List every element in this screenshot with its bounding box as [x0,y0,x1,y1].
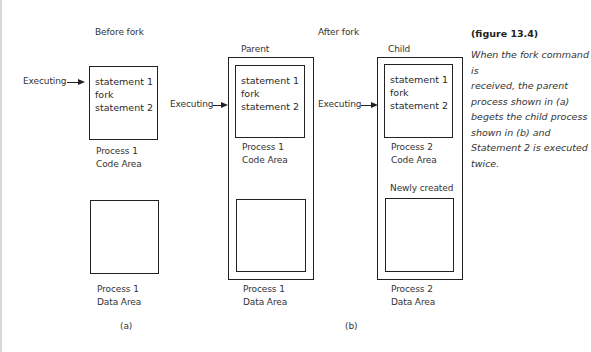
caption-line: process shown in (a) [471,94,591,110]
statement-1: statement 1 [390,73,448,86]
child-code-label-line2: Code Area [391,154,437,167]
process1-data-label-line2: Data Area [97,296,141,309]
statement-2: statement 2 [241,100,299,113]
process1-data-label-line1: Process 1 [97,283,139,296]
caption-line: shown in (b) and [471,125,591,141]
parent-code-label-line2: Code Area [242,154,288,167]
statement-2: statement 2 [390,99,448,112]
statement-fork: fork [95,88,114,101]
child-title: Child [388,43,410,56]
executing-label-parent: Executing [170,98,213,111]
parent-data-label-line2: Data Area [243,296,287,309]
parent-title: Parent [241,43,269,56]
sublabel-b: (b) [345,320,357,333]
process1-code-label-line1: Process 1 [96,145,138,158]
statement-1: statement 1 [241,74,299,87]
caption-line: begets the child process [471,109,591,125]
arrow-right-icon [213,105,226,106]
statement-1: statement 1 [95,75,153,88]
parent-data-label-line1: Process 1 [243,283,285,296]
arrow-right-icon [67,82,83,83]
parent-code-box: statement 1 fork statement 2 [235,65,305,138]
child-code-label-line1: Process 2 [391,141,433,154]
executing-label-before: Executing [23,75,66,88]
sublabel-a: (a) [120,320,132,333]
figure-number: (figure 13.4) [471,28,538,39]
caption-line: When the fork command is [471,47,591,78]
caption-line: Statement 2 is executed [471,140,591,156]
caption-line: twice. [471,156,591,172]
process1-code-label-line2: Code Area [96,158,142,171]
child-data-box [385,198,454,272]
figure-caption: When the fork command is received, the p… [471,47,591,171]
parent-code-label-line1: Process 1 [242,141,284,154]
caption-line: received, the parent [471,78,591,94]
statement-2: statement 2 [95,101,153,114]
process1-code-box: statement 1 fork statement 2 [89,66,158,140]
child-code-box: statement 1 fork statement 2 [384,64,453,138]
parent-data-box [236,199,306,272]
process1-data-box [90,200,159,274]
arrow-right-icon [361,105,376,106]
statement-fork: fork [241,87,260,100]
executing-label-child: Executing [318,98,361,111]
child-data-label-line2: Data Area [391,296,435,309]
before-fork-heading: Before fork [95,26,144,39]
newly-created-label: Newly created [390,182,453,195]
statement-fork: fork [390,86,409,99]
after-fork-heading: After fork [318,26,359,39]
child-data-label-line1: Process 2 [391,283,433,296]
page-edge [0,0,2,352]
